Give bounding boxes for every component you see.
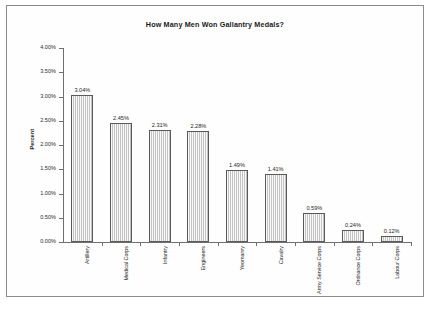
y-axis-tick: 0.50%	[59, 218, 63, 219]
x-axis-category-label: Artillery	[84, 246, 90, 264]
bar-value-label: 0.12%	[384, 228, 400, 234]
y-axis-tick: 0.00%	[59, 242, 63, 243]
x-axis-tick	[140, 242, 141, 246]
y-axis-line	[63, 48, 64, 243]
y-axis-tick-label: 1.00%	[40, 190, 56, 196]
chart-title: How Many Men Won Gallantry Medals?	[7, 20, 423, 29]
y-axis-tick-label: 1.50%	[40, 165, 56, 171]
bar-value-label: 1.41%	[268, 166, 284, 172]
chart-screenshot: How Many Men Won Gallantry Medals? Perce…	[0, 0, 432, 309]
x-axis-tick	[102, 242, 103, 246]
x-axis-tick	[256, 242, 257, 246]
bar-value-label: 2.31%	[152, 122, 168, 128]
x-axis-tick	[372, 242, 373, 246]
y-axis-tick: 1.50%	[59, 169, 63, 170]
bar	[149, 130, 171, 242]
bar	[381, 236, 403, 242]
x-axis-category-label: Medical Corps	[123, 246, 129, 280]
x-axis-line	[63, 242, 411, 243]
bar-value-label: 0.24%	[345, 222, 361, 228]
plot-area: 0.00%0.50%1.00%1.50%2.00%2.50%3.00%3.50%…	[63, 48, 411, 243]
y-axis-tick-label: 0.50%	[40, 214, 56, 220]
y-axis-tick: 3.00%	[59, 97, 63, 98]
y-axis-tick: 2.50%	[59, 121, 63, 122]
y-axis-tick-label: 3.00%	[40, 93, 56, 99]
bar	[226, 170, 248, 242]
bar-value-label: 1.49%	[229, 162, 245, 168]
bar	[187, 131, 209, 242]
bar-value-label: 3.04%	[74, 87, 90, 93]
y-axis-tick-label: 3.50%	[40, 68, 56, 74]
x-axis-category-label: Army Service Corps	[316, 246, 322, 294]
x-axis-tick	[218, 242, 219, 246]
y-axis-tick: 4.00%	[59, 48, 63, 49]
page-frame: How Many Men Won Gallantry Medals? Perce…	[6, 5, 424, 297]
bar	[303, 213, 325, 242]
y-axis-tick-label: 0.00%	[40, 238, 56, 244]
x-axis-tick	[334, 242, 335, 246]
bar	[265, 174, 287, 242]
x-axis-tick	[295, 242, 296, 246]
y-axis-tick-label: 4.00%	[40, 44, 56, 50]
bar-value-label: 2.28%	[190, 123, 206, 129]
y-axis-tick: 3.50%	[59, 72, 63, 73]
bar	[110, 123, 132, 242]
bar-value-label: 2.45%	[113, 115, 129, 121]
y-axis-tick-label: 2.50%	[40, 117, 56, 123]
x-axis-category-label: Engineers	[200, 246, 206, 270]
y-axis-tick-label: 2.00%	[40, 141, 56, 147]
x-axis-tick	[179, 242, 180, 246]
bar	[71, 95, 93, 242]
y-axis-title: Percent	[29, 129, 35, 150]
x-axis-category-label: Labour Corps	[394, 246, 400, 279]
bar	[342, 230, 364, 242]
x-axis-category-label: Yeomanry	[239, 246, 245, 270]
y-axis-tick: 1.00%	[59, 194, 63, 195]
x-axis-tick	[411, 242, 412, 246]
x-axis-category-label: Infantry	[162, 246, 168, 264]
x-axis-category-label: Cavalry	[278, 246, 284, 264]
bar-value-label: 0.59%	[306, 205, 322, 211]
x-axis-category-label: Ordnance Corps	[355, 246, 361, 286]
y-axis-tick: 2.00%	[59, 145, 63, 146]
